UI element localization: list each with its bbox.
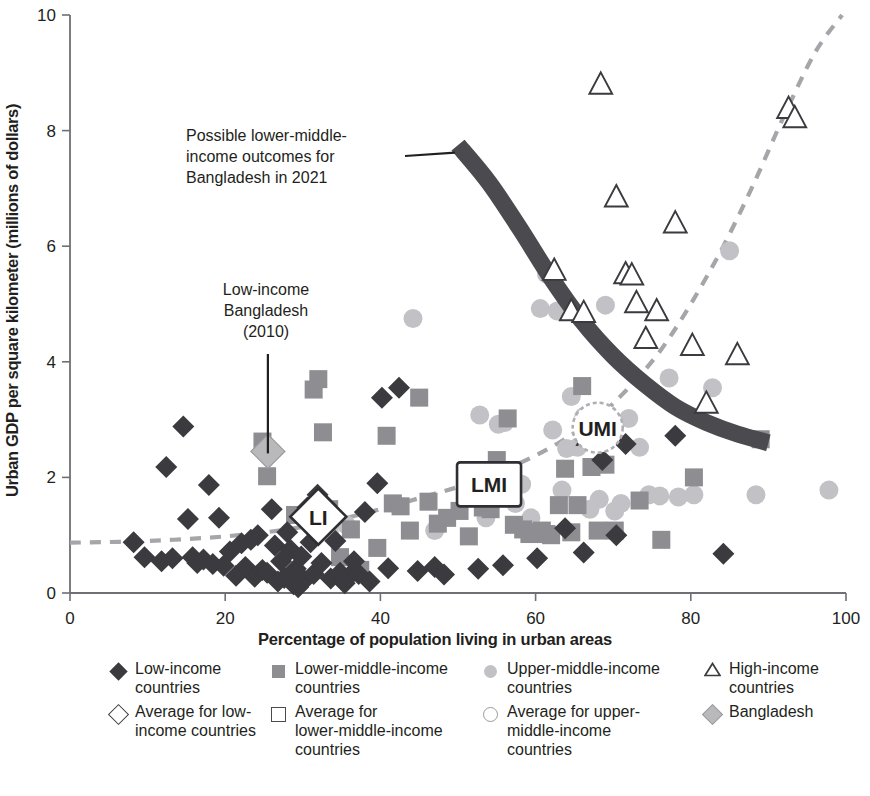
data-point-low-income [388,377,410,399]
legend-label-line: countries [729,679,819,698]
legend-entry-label: Upper-middle-incomecountries [507,660,660,698]
y-tick-label: 6 [47,237,56,256]
data-point-upper-middle [590,490,609,509]
y-tick-label: 2 [47,468,56,487]
legend-label-line: countries [295,741,443,760]
legend-column: High-incomecountriesBangladesh [702,660,819,729]
annot-bd-line: Low-income [196,280,336,301]
legend-entry[interactable]: Bangladesh [702,703,819,724]
legend-entry[interactable]: High-incomecountries [702,660,819,698]
legend-label-line: Lower-middle-income [295,660,448,679]
data-point-high-income [589,72,612,93]
legend-entry[interactable]: Upper-middle-incomecountries [480,660,660,698]
trend-curve [70,15,842,543]
legend-label-line: High-income [729,660,819,679]
data-point-upper-middle [403,309,422,328]
data-point-upper-middle [650,486,669,505]
data-point-lower-middle [499,409,517,427]
annot-band-line: income outcomes for [186,147,408,168]
data-point-low-income [467,558,489,580]
data-point-upper-middle [470,405,489,424]
data-point-low-income [172,416,194,438]
average-lower-middle-marker-icon [271,707,286,722]
data-point-lower-middle [652,531,670,549]
data-point-high-income [645,299,668,320]
legend-label-line: Average for low- [135,703,256,722]
legend-label-line: income countries [135,722,256,741]
legend-column: Lower-middle-incomecountriesAverage forl… [268,660,448,764]
filled-circle-swatch [480,662,500,681]
open-triangle-swatch [702,662,722,681]
filled-square-swatch [268,662,288,681]
band-annotation-leader [405,153,455,156]
data-point-upper-middle [611,494,630,513]
data-point-high-income [605,185,628,206]
legend-entry-label: Average for upper-middle-incomecountries [507,703,640,760]
upper-middle-marker-icon [484,665,497,678]
filled-diamond-swatch [108,662,128,681]
annot-bd-line: Bangladesh [196,301,336,322]
y-axis-label-wrap: Urban GDP per square kilometer (millions… [0,0,28,600]
legend-label-line: Average for [295,703,443,722]
data-point-low-income [377,557,399,579]
data-point-low-income [177,508,199,530]
data-point-low-income [155,456,177,478]
x-axis-label: Percentage of population living in urban… [0,630,870,649]
annot-bd-line: (2010) [196,322,336,343]
band-annotation: Possible lower-middle-income outcomes fo… [186,126,408,188]
legend-column: Low-incomecountriesAverage for low-incom… [108,660,256,746]
legend-entry[interactable]: Average forlower-middle-incomecountries [268,703,448,760]
annot-band-line: Possible lower-middle- [186,126,408,147]
data-point-low-income [712,543,734,565]
x-tick-label: 20 [216,609,235,628]
legend-label-line: Bangladesh [729,703,814,722]
data-point-upper-middle [543,421,562,440]
data-point-lower-middle [569,496,587,514]
data-point-low-income [664,425,686,447]
legend-entry-label: Average forlower-middle-incomecountries [295,703,443,760]
legend-entry-label: Bangladesh [729,703,814,722]
data-point-lower-middle [309,370,327,388]
chart-legend: Low-incomecountriesAverage for low-incom… [0,660,870,796]
x-tick-label: 0 [65,609,74,628]
data-point-low-income [354,501,376,523]
x-tick-label: 40 [371,609,390,628]
data-point-upper-middle [531,299,550,318]
lower-middle-marker-icon [272,665,285,678]
data-point-lower-middle [573,377,591,395]
legend-entry[interactable]: Average for low-income countries [108,703,256,741]
y-axis-label: Urban GDP per square kilometer (millions… [4,103,23,496]
data-point-lower-middle [401,522,419,540]
data-point-lower-middle [556,460,574,478]
data-point-high-income [681,334,704,355]
data-point-lower-middle [420,493,438,511]
chart-figure: 0204060801000246810LILMIUMI Urban GDP pe… [0,0,870,796]
legend-entry-label: Average for low-income countries [135,703,256,741]
y-tick-label: 0 [47,584,56,603]
legend-label-line: middle-income [507,722,640,741]
data-point-lower-middle [631,492,649,510]
x-tick-label: 80 [681,609,700,628]
legend-label-line: Upper-middle-income [507,660,660,679]
open-diamond-swatch [108,705,128,724]
legend-entry[interactable]: Average for upper-middle-incomecountries [480,703,660,760]
legend-entry[interactable]: Low-incomecountries [108,660,256,698]
data-point-low-income [198,474,220,496]
data-point-low-income [526,547,548,569]
legend-entry[interactable]: Lower-middle-incomecountries [268,660,448,698]
y-tick-label: 10 [37,6,56,25]
data-point-low-income [492,554,514,576]
bangladesh-marker-icon [701,704,722,725]
open-circle-swatch [480,705,500,724]
data-point-upper-middle [746,485,765,504]
y-tick-label: 4 [47,353,56,372]
low-income-marker-icon [109,662,127,680]
data-point-upper-middle [660,368,679,387]
data-point-lower-middle [378,427,396,445]
legend-label-line: countries [507,679,660,698]
data-point-high-income [634,327,657,348]
open-square-swatch [268,705,288,724]
bangladesh-annotation: Low-incomeBangladesh(2010) [196,280,336,342]
data-point-low-income [208,507,230,529]
data-point-high-income [664,211,687,232]
